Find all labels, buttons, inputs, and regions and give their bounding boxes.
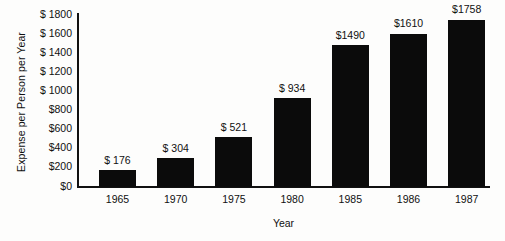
bar-chart-figure: Expense per Person per Year $0$200$400$6… (0, 0, 505, 241)
x-tick-label: 1986 (377, 193, 440, 205)
bar-value-label: $ 521 (202, 122, 265, 133)
y-tick-label: $0 (8, 181, 72, 191)
x-tick-label: 1980 (261, 193, 324, 205)
y-tick-label: $800 (8, 104, 72, 114)
bar-value-label: $1758 (435, 4, 498, 15)
y-tick-label: $ 1600 (8, 28, 72, 38)
y-tick-label: $ 1200 (8, 66, 72, 76)
x-tick-label: 1965 (86, 193, 149, 205)
bar[interactable] (332, 45, 369, 187)
y-tick-label: $200 (8, 161, 72, 171)
bar[interactable] (448, 20, 485, 187)
y-tick-label: $ 1000 (8, 85, 72, 95)
x-tick-label: 1970 (144, 193, 207, 205)
bar-value-label: $ 934 (261, 83, 324, 94)
y-tick-label: $600 (8, 123, 72, 133)
x-tick-label: 1987 (435, 193, 498, 205)
bar[interactable] (390, 34, 427, 187)
bar[interactable] (99, 170, 136, 187)
bar-value-label: $ 304 (144, 143, 207, 154)
bar[interactable] (215, 137, 252, 187)
y-tick-label: $ 1800 (8, 9, 72, 19)
bar-value-label: $1490 (319, 30, 382, 41)
bar-value-label: $ 176 (86, 155, 149, 166)
x-axis-title: Year (77, 217, 490, 229)
bar-value-label: $1610 (377, 18, 440, 29)
y-axis-tick-labels: $0$200$400$600$800$ 1000$ 1200$ 1400$ 16… (0, 0, 74, 241)
y-tick-label: $400 (8, 142, 72, 152)
bar[interactable] (274, 98, 311, 187)
bar[interactable] (157, 158, 194, 187)
x-tick-label: 1975 (202, 193, 265, 205)
plot-area: $ 176$ 304$ 521$ 934$1490$1610$1758 (77, 14, 490, 187)
y-tick-label: $ 1400 (8, 47, 72, 57)
x-tick-label: 1985 (319, 193, 382, 205)
